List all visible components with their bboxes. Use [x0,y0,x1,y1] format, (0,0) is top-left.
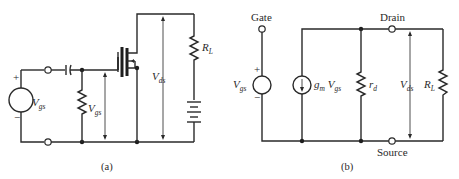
source-label: Source [377,146,408,158]
figure-b-small-signal-model: Gate + − Vgs gm Vgs rd Drain Source [233,11,447,173]
output-rl-label: RL [423,78,435,93]
load-rl-label: RL [201,41,213,56]
vgs-measurement-arrow [103,72,107,140]
dependent-current-source-icon [293,76,311,94]
source-terminal [389,138,395,144]
drain-terminal [389,26,395,32]
figure-a-caption: (a) [101,161,113,173]
battery-icon [187,102,201,122]
gate-resistor-icon [78,70,86,142]
input-plus-sign: + [254,63,260,75]
figure-b-caption: (b) [341,161,354,173]
mosfet-circuit-figure: + − Vgs Vgs [0,0,459,179]
rd-label: rd [369,78,377,93]
source-vgs-label: Vgs [32,96,45,111]
drain-label: Drain [380,11,406,23]
source-minus-sign: − [14,111,20,123]
drain-vds-label: Vds [152,70,165,85]
input-minus-sign: − [254,91,260,103]
output-vds-label: Vds [400,78,413,93]
gate-vgs-label: Vgs [88,102,101,117]
load-resistor-icon [190,14,198,100]
input-vgs-label: Vgs [233,78,246,93]
source-plus-sign: + [13,71,19,83]
load-resistor-rl-icon [439,29,447,141]
gate-label: Gate [251,11,272,23]
gm-vgs-label: gm Vgs [314,78,341,93]
input-terminal-top [45,67,51,73]
gate-terminal [259,26,265,32]
input-terminal-bottom [45,139,51,145]
figure-a-amplifier-circuit: + − Vgs Vgs [9,14,213,173]
drain-resistance-rd-icon [357,29,365,141]
ac-voltage-source-icon [9,88,33,112]
